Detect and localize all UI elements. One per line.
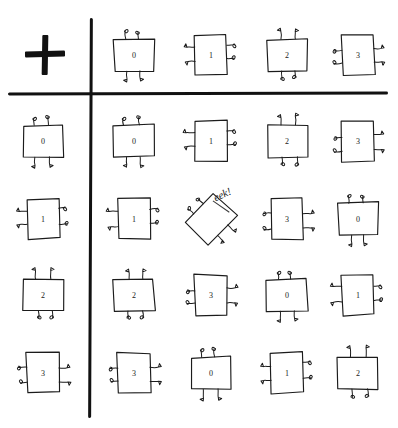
cell-value-label: 0 bbox=[17, 118, 69, 164]
creature-square-rot270: 3 bbox=[111, 347, 158, 400]
cell-value-label: 3 bbox=[108, 350, 160, 396]
body-cell-r1-c2: 3 bbox=[249, 182, 325, 256]
row-header-cell-3: 3 bbox=[5, 336, 81, 410]
body-cell-r0-c3: 3 bbox=[320, 104, 396, 178]
row-header-cell-1: 1 bbox=[5, 182, 81, 256]
body-cell-r2-c2: 0 bbox=[249, 258, 325, 332]
body-cell-r1-c0: 1 bbox=[96, 182, 172, 256]
creature-square-rot180: 2 bbox=[261, 118, 314, 165]
body-cell-r2-c3: 1 bbox=[320, 258, 396, 332]
cell-value-label: 3 bbox=[17, 350, 69, 396]
creature-square-rot180: 2 bbox=[17, 272, 70, 319]
body-cell-r3-c2: 1 bbox=[249, 336, 325, 410]
cell-value-label: 1 bbox=[332, 272, 384, 318]
cell-value-label: 0 bbox=[108, 32, 160, 78]
cell-value-label: 0 bbox=[185, 350, 237, 396]
creature-square-rot90: 1 bbox=[334, 268, 381, 321]
row-header-cell-0: 0 bbox=[5, 104, 81, 178]
cell-value-label: 3 bbox=[261, 196, 313, 242]
body-cell-r2-c0: 2 bbox=[96, 258, 172, 332]
creature-square-rot0: 0 bbox=[107, 117, 160, 164]
creature-square-rot180: 2 bbox=[108, 272, 161, 319]
creature-square-rot270: 3 bbox=[264, 193, 311, 246]
cell-value-label: 2 bbox=[332, 350, 384, 396]
creature-square-rot0: 0 bbox=[260, 271, 313, 318]
cell-value-label: 0 bbox=[261, 272, 313, 318]
cell-value-label: 1 bbox=[17, 196, 69, 242]
body-cell-r1-c1: eek! bbox=[173, 182, 249, 256]
body-cell-r3-c3: 2 bbox=[320, 336, 396, 410]
creature-square-rot90: 1 bbox=[187, 114, 234, 167]
cell-value-label: 3 bbox=[332, 32, 384, 78]
column-header-cell-3: 3 bbox=[320, 18, 396, 92]
body-cell-r3-c0: 3 bbox=[96, 336, 172, 410]
body-cell-r2-c1: 3 bbox=[173, 258, 249, 332]
operator-corner-cell bbox=[0, 18, 89, 92]
creature-square-rot180: 2 bbox=[261, 32, 314, 79]
creature-square-rot0: 0 bbox=[107, 31, 160, 78]
creature-square-rot180: 2 bbox=[332, 350, 385, 397]
plus-icon bbox=[25, 35, 65, 75]
body-cell-r0-c0: 0 bbox=[96, 104, 172, 178]
creature-square-rot0: 0 bbox=[16, 117, 69, 164]
cell-value-label: 1 bbox=[261, 350, 313, 396]
creature-square-rot0: 0 bbox=[184, 349, 237, 396]
column-header-cell-2: 2 bbox=[249, 18, 325, 92]
column-header-cell-1: 1 bbox=[173, 18, 249, 92]
column-header-cell-0: 0 bbox=[96, 18, 172, 92]
row-header-cell-2: 2 bbox=[5, 258, 81, 332]
body-cell-r0-c2: 2 bbox=[249, 104, 325, 178]
cell-value-label: 3 bbox=[332, 118, 384, 164]
creature-square-rot90: 1 bbox=[187, 28, 234, 81]
creature-square-rot90: 1 bbox=[110, 192, 157, 245]
cell-value-label: 0 bbox=[108, 118, 160, 164]
creature-square-rot270: 3 bbox=[188, 269, 235, 322]
creature-square-rot45 bbox=[176, 184, 245, 253]
creature-square-rot270: 3 bbox=[335, 115, 382, 168]
creature-square-rot0: 0 bbox=[331, 195, 384, 242]
cell-value-label: 2 bbox=[108, 272, 160, 318]
body-cell-r0-c1: 1 bbox=[173, 104, 249, 178]
creature-square-rot90: 1 bbox=[263, 346, 310, 399]
cell-value-label: 1 bbox=[185, 118, 237, 164]
cell-value-label: 2 bbox=[261, 118, 313, 164]
cell-value-label: 2 bbox=[17, 272, 69, 318]
creature-square-rot270: 3 bbox=[335, 29, 382, 82]
cell-value-label: 2 bbox=[261, 32, 313, 78]
cayley-table-figure: 0 1 2 3 0 0 1 bbox=[0, 0, 398, 428]
body-cell-r1-c3: 0 bbox=[320, 182, 396, 256]
cell-value-label: 1 bbox=[108, 196, 160, 242]
body-cell-r3-c1: 0 bbox=[173, 336, 249, 410]
cell-value-label: 1 bbox=[185, 32, 237, 78]
creature-square-rot270: 3 bbox=[20, 347, 67, 400]
creature-square-rot90: 1 bbox=[19, 192, 66, 245]
cell-value-label: 0 bbox=[332, 196, 384, 242]
cell-value-label: 3 bbox=[185, 272, 237, 318]
